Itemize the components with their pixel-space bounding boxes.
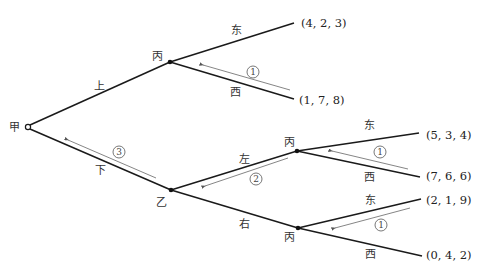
player-label-bing-mid: 丙: [284, 136, 295, 149]
edge-zuo: [171, 151, 297, 190]
action-label-zuo: 左: [239, 153, 250, 166]
edge-you: [171, 190, 298, 228]
root-node-jia: [25, 124, 30, 129]
player-label-yi: 乙: [156, 196, 167, 209]
arrow-step1-top: [203, 65, 290, 90]
payoff-t4: (7, 6, 6): [426, 169, 472, 183]
action-label-dong-top: 东: [231, 24, 242, 37]
payoff-t1: (4, 2, 3): [301, 16, 347, 30]
node-bing-top: [168, 60, 173, 65]
edge-xia: [30, 129, 171, 190]
action-label-dong-bot: 东: [365, 194, 376, 207]
edge-xi-mid: [297, 151, 420, 177]
edge-dong-mid: [297, 133, 419, 151]
svg-text:2: 2: [253, 174, 259, 184]
action-label-shang: 上: [94, 80, 105, 93]
step-badge-1-top: 1: [247, 66, 259, 78]
node-bing-mid: [295, 149, 300, 154]
player-label-bing-top: 丙: [152, 50, 163, 63]
svg-text:1: 1: [377, 147, 383, 157]
svg-text:3: 3: [116, 147, 122, 157]
action-label-dong-mid: 东: [364, 119, 375, 132]
step-badge-1-bot: 1: [375, 219, 387, 231]
action-label-xi-bot: 西: [365, 248, 376, 261]
node-bing-bot: [296, 226, 301, 231]
payoff-t2: (1, 7, 8): [299, 93, 345, 107]
action-label-you: 右: [239, 217, 250, 231]
game-tree: 甲 丙 乙 丙 丙 上 下 东 西 左 右 东 西 东 西 1 3 2 1 1 …: [0, 0, 480, 272]
arrow-step3: [68, 140, 156, 178]
payoff-t5: (2, 1, 9): [426, 193, 472, 207]
svg-text:1: 1: [378, 220, 384, 230]
node-yi: [169, 188, 174, 193]
action-label-xi-top: 西: [230, 86, 241, 99]
edge-dong-bot: [298, 199, 421, 228]
player-label-bing-bot: 丙: [284, 231, 295, 244]
edge-xi-bot: [298, 228, 422, 256]
step-badge-1-mid: 1: [374, 146, 386, 158]
action-label-xia: 下: [95, 164, 106, 177]
svg-text:1: 1: [250, 67, 256, 77]
player-label-jia: 甲: [9, 121, 20, 134]
payoff-t3: (5, 3, 4): [426, 128, 472, 142]
action-label-xi-mid: 西: [364, 171, 375, 184]
edge-shang: [30, 62, 170, 125]
step-badge-3: 3: [113, 146, 125, 158]
step-badge-2: 2: [250, 173, 262, 185]
payoff-t6: (0, 4, 2): [426, 248, 472, 262]
